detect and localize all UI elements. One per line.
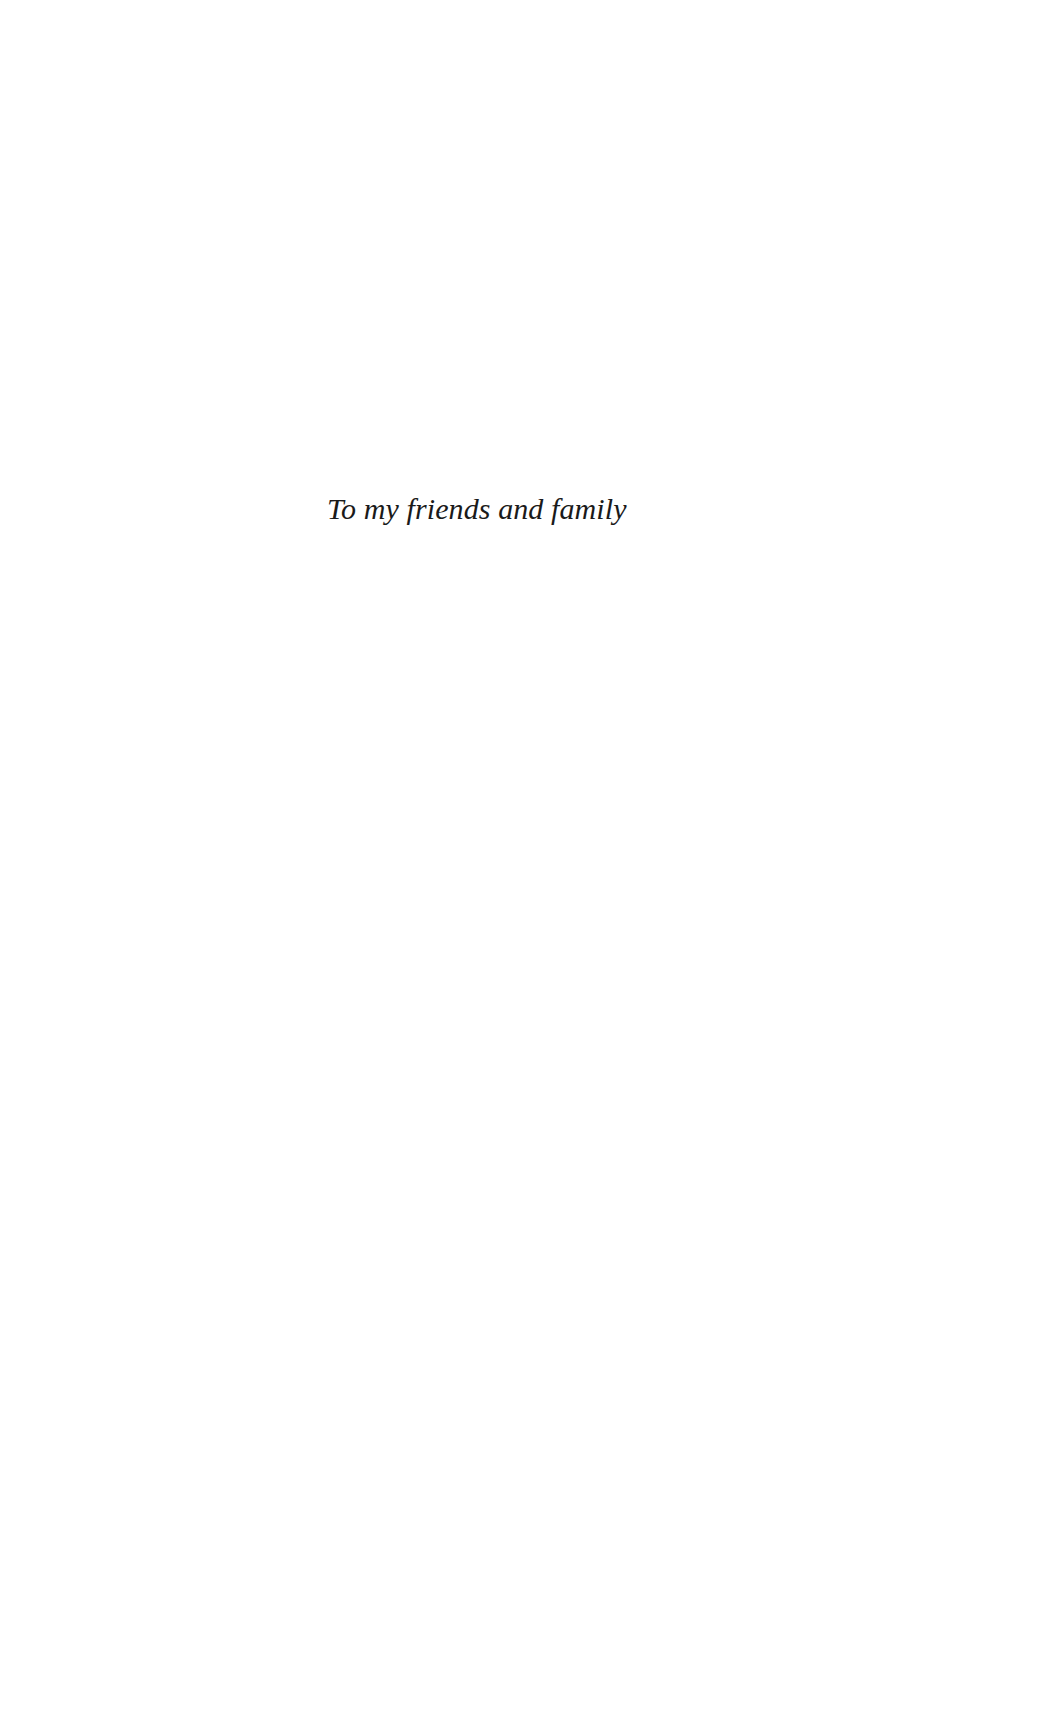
book-page: To my friends and family: [0, 0, 1060, 1726]
dedication-text: To my friends and family: [327, 491, 627, 527]
